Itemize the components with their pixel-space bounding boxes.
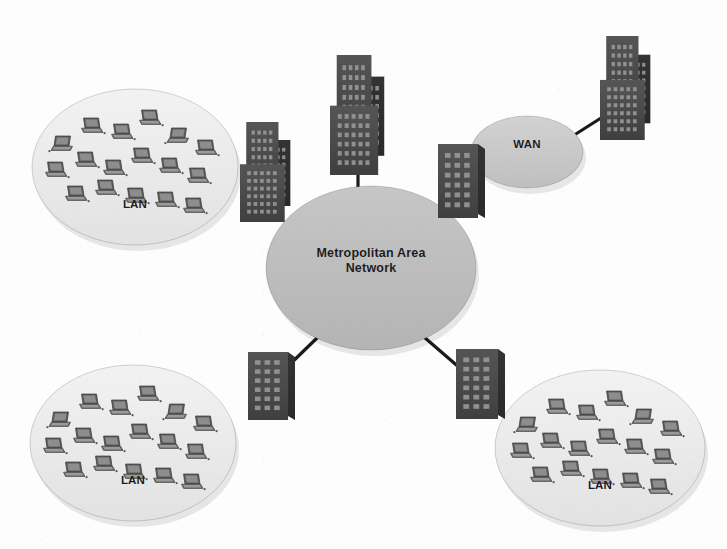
building-bottom-right-block-side xyxy=(498,349,505,419)
lan-bottom-left-label: LAN xyxy=(53,474,213,488)
wan-cloud[interactable] xyxy=(471,116,586,194)
building-center-tall[interactable] xyxy=(330,55,384,175)
building-bottom-right-block[interactable] xyxy=(456,349,505,419)
building-right-block[interactable] xyxy=(438,144,485,218)
building-bottom-left-block-side xyxy=(288,352,295,420)
building-top-right[interactable] xyxy=(600,36,650,140)
network-diagram-canvas: LAN LAN LAN Metropolitan Area Network WA… xyxy=(0,0,727,549)
building-bottom-left-block[interactable] xyxy=(248,352,295,420)
building-right-block-side xyxy=(478,144,485,218)
wan-cloud-ellipse[interactable] xyxy=(471,116,583,188)
man-label: Metropolitan Area Network xyxy=(291,246,451,276)
lan-bottom-right-label: LAN xyxy=(520,479,680,493)
wan-label: WAN xyxy=(447,138,607,152)
lan-top-left-label: LAN xyxy=(55,198,215,212)
building-left-tower[interactable] xyxy=(240,122,290,222)
